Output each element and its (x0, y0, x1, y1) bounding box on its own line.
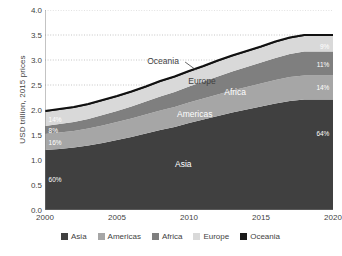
series-annotation-asia: Asia (175, 159, 192, 169)
legend-swatch-icon (240, 233, 247, 240)
share-label-asia: 60% (49, 176, 62, 183)
legend-label: Americas (108, 232, 141, 241)
y-axis-tick-label: 2.5 (31, 81, 42, 90)
share-label-americas: 16% (49, 138, 62, 145)
share-label-asia: 64% (316, 129, 329, 136)
y-axis-tick-label: 3.5 (31, 31, 42, 40)
legend-item-oceania[interactable]: Oceania (240, 232, 280, 241)
legend-label: Europe (203, 232, 229, 241)
series-annotation-americas: Americas (177, 109, 212, 119)
y-axis-tick-label: 4.0 (31, 6, 42, 15)
legend-swatch-icon (152, 233, 159, 240)
x-axis-tick-label: 2005 (108, 213, 126, 222)
legend-item-europe[interactable]: Europe (193, 232, 229, 241)
share-label-europe: 14% (49, 115, 62, 122)
annotation-leader-line (185, 62, 196, 70)
legend-swatch-icon (193, 233, 200, 240)
y-axis-tick-label: 1.0 (31, 156, 42, 165)
legend-item-asia[interactable]: Asia (61, 232, 87, 241)
share-label-africa: 11% (317, 60, 330, 67)
share-label-europe: 9% (320, 43, 329, 50)
share-label-americas: 14% (316, 83, 329, 90)
series-annotation-oceania: Oceania (147, 56, 179, 66)
x-axis-tick-label: 2020 (324, 213, 342, 222)
series-annotation-africa: Africa (224, 87, 246, 97)
legend-label: Africa (162, 232, 182, 241)
y-axis-tick-label: 1.5 (31, 131, 42, 140)
legend-item-americas[interactable]: Americas (98, 232, 141, 241)
legend-label: Asia (71, 232, 87, 241)
legend-label: Oceania (250, 232, 280, 241)
y-axis-tick-label: 2.0 (31, 106, 42, 115)
series-annotation-europe: Europe (188, 76, 215, 86)
x-axis-tick-label: 2000 (36, 213, 54, 222)
legend-swatch-icon (61, 233, 68, 240)
x-axis-tick-label: 2015 (252, 213, 270, 222)
x-axis-tick-label: 2010 (180, 213, 198, 222)
y-axis-tick-label: 3.0 (31, 56, 42, 65)
legend-item-africa[interactable]: Africa (152, 232, 182, 241)
chart-legend: AsiaAmericasAfricaEuropeOceania (0, 232, 341, 241)
y-axis-tick-labels: 0.00.51.01.52.02.53.03.54.0 (18, 0, 42, 216)
y-axis-tick-label: 0.5 (31, 181, 42, 190)
legend-swatch-icon (98, 233, 105, 240)
x-axis-tick-labels: 20002005201020152020 (45, 213, 333, 227)
share-label-africa: 8% (49, 127, 58, 134)
